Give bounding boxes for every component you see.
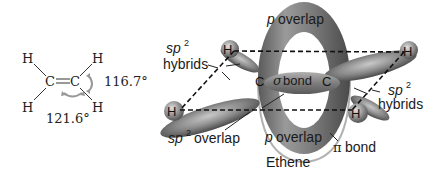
sp2-hybrids-left-label: sp 2 hybrids xyxy=(163,38,208,72)
lewis-structure: H H H H C C 116.7° 121.6° xyxy=(22,51,148,126)
orbital-atom-h-upper-left: H xyxy=(223,42,232,57)
leader-hybrids-right-2 xyxy=(372,90,380,92)
angle-arrow-hcc xyxy=(64,93,82,97)
atom-h-top-right: H xyxy=(92,51,103,66)
sp2-right-sup: 2 xyxy=(406,80,411,90)
angle-label-hch: 116.7° xyxy=(104,74,148,89)
ethene-diagram: H H H H C C 116.7° 121.6° xyxy=(0,0,442,181)
sigma-bond-label: bond xyxy=(283,73,312,88)
p-overlap-top-label: overlap xyxy=(278,11,324,27)
atom-c-right: C xyxy=(70,74,80,89)
diagram-title: Ethene xyxy=(266,154,311,170)
hybrids-left-word: hybrids xyxy=(163,56,208,72)
atom-h-bottom-left: H xyxy=(22,100,33,115)
atom-h-top-left: H xyxy=(22,51,33,66)
pi-symbol: π xyxy=(333,140,342,155)
angle-arrowhead-hch-top xyxy=(86,73,90,78)
bond-c-h-top-right xyxy=(80,64,92,76)
atom-c-left: C xyxy=(45,74,55,89)
p-overlap-bottom-italic: p xyxy=(264,129,273,145)
orbital-atom-h-lower-left: H xyxy=(167,104,176,119)
p-overlap-top-italic: p xyxy=(266,11,275,27)
sp2-left-sup: 2 xyxy=(184,38,189,48)
hybrids-right-word: hybrids xyxy=(378,96,423,112)
sp2-overlap-italic: sp xyxy=(168,130,183,146)
angle-label-hcc: 121.6° xyxy=(46,111,90,126)
leader-hybrids-left-1 xyxy=(208,65,218,68)
p-overlap-bottom-label: overlap xyxy=(276,129,322,145)
pi-bond-label: bond xyxy=(345,139,376,155)
orbital-atom-c-left: C xyxy=(255,74,264,89)
angle-arrowhead-hch-bottom xyxy=(86,89,90,94)
sp2-hybrids-right-label: sp 2 hybrids xyxy=(378,80,423,112)
bond-c-h-bottom-left xyxy=(34,88,46,100)
orbital-atom-c-right: C xyxy=(322,74,331,89)
sigma-symbol: σ xyxy=(273,73,283,88)
leader-hybrids-right-1 xyxy=(354,88,368,94)
orbital-model: H H H H C C σ bond p overlap p overlap s… xyxy=(157,2,423,170)
atom-h-bottom-right: H xyxy=(92,100,103,115)
orbital-atom-h-lower-right: H xyxy=(351,106,360,121)
orbital-atom-h-upper-right: H xyxy=(403,44,412,59)
sp2-overlap-label: overlap xyxy=(194,130,240,146)
sp2-overlap-sup: 2 xyxy=(186,128,191,138)
diagram-canvas: H H H H C C 116.7° 121.6° xyxy=(0,0,442,181)
sp2-left-italic: sp xyxy=(166,40,181,56)
leader-hybrids-left-3 xyxy=(222,72,230,80)
